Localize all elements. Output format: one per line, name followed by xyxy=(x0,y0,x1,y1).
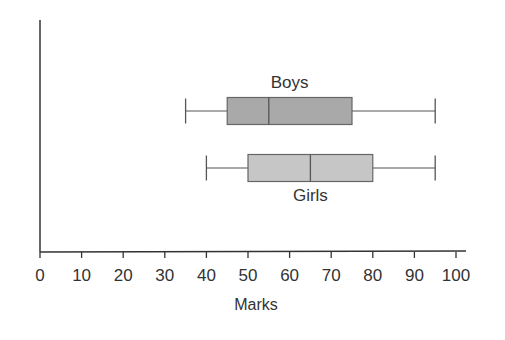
x-tick-label: 70 xyxy=(322,266,341,285)
x-axis xyxy=(40,251,466,252)
box-boys: Boys xyxy=(186,73,436,125)
box-girls: Girls xyxy=(206,155,435,205)
x-tick-label: 50 xyxy=(239,266,258,285)
box-series: BoysGirls xyxy=(186,73,436,205)
x-tick-label: 80 xyxy=(363,266,382,285)
x-axis-ticks xyxy=(40,252,456,258)
x-tick-label: 40 xyxy=(197,266,216,285)
x-tick-label: 20 xyxy=(114,266,133,285)
series-label-girls: Girls xyxy=(293,186,328,205)
x-tick-label: 0 xyxy=(35,266,44,285)
x-tick-label: 30 xyxy=(155,266,174,285)
series-label-boys: Boys xyxy=(271,73,309,92)
x-tick-label: 90 xyxy=(405,266,424,285)
x-tick-label: 10 xyxy=(72,266,91,285)
x-tick-label: 60 xyxy=(280,266,299,285)
x-axis-tick-labels: 0102030405060708090100 xyxy=(35,266,470,285)
x-axis-label: Marks xyxy=(234,296,278,313)
x-tick-label: 100 xyxy=(442,266,470,285)
boxplot-chart: 0102030405060708090100 Marks BoysGirls xyxy=(0,0,505,340)
